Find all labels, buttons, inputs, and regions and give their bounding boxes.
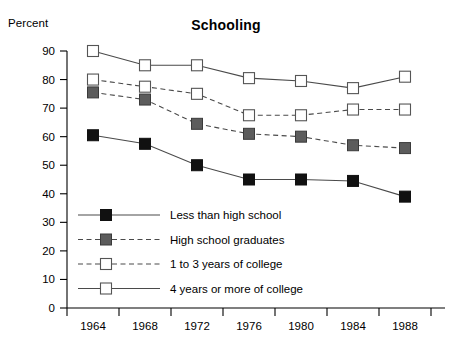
data-point-marker — [400, 104, 411, 115]
data-series — [88, 46, 411, 94]
data-series-group — [88, 46, 411, 203]
y-tick-label: 40 — [42, 188, 55, 200]
line-chart-plot: 0102030405060708090 19641968197219761980… — [0, 0, 452, 354]
data-point-marker — [244, 73, 255, 84]
x-axis: 1964196819721976198019841988 — [67, 308, 445, 332]
y-axis: 0102030405060708090 — [42, 45, 67, 314]
x-tick-label: 1976 — [236, 320, 262, 332]
y-tick-label: 30 — [42, 216, 55, 228]
x-tick-label: 1968 — [132, 320, 158, 332]
legend-marker-swatch — [101, 234, 112, 245]
y-tick-label: 20 — [42, 245, 55, 257]
y-tick-label: 80 — [42, 74, 55, 86]
data-point-marker — [88, 46, 99, 57]
data-point-marker — [296, 131, 307, 142]
data-point-marker — [192, 88, 203, 99]
data-point-marker — [140, 60, 151, 71]
x-tick-label: 1972 — [184, 320, 210, 332]
data-point-marker — [400, 143, 411, 154]
y-tick-label: 60 — [42, 131, 55, 143]
data-point-marker — [140, 138, 151, 149]
data-point-marker — [140, 94, 151, 105]
legend-item: 4 years or more of college — [78, 283, 303, 295]
data-point-marker — [88, 130, 99, 141]
x-tick-label: 1988 — [392, 320, 418, 332]
data-point-marker — [296, 174, 307, 185]
data-point-marker — [192, 160, 203, 171]
y-tick-label: 50 — [42, 159, 55, 171]
legend-label: 4 years or more of college — [170, 283, 303, 295]
data-point-marker — [244, 128, 255, 139]
legend-label: 1 to 3 years of college — [170, 258, 283, 270]
data-point-marker — [88, 87, 99, 98]
legend-item: Less than high school — [78, 209, 281, 221]
data-point-marker — [348, 83, 359, 94]
data-point-marker — [348, 140, 359, 151]
data-point-marker — [348, 175, 359, 186]
x-tick-label: 1984 — [340, 320, 366, 332]
data-point-marker — [400, 71, 411, 82]
y-tick-label: 70 — [42, 102, 55, 114]
data-point-marker — [88, 74, 99, 85]
chart-legend: Less than high schoolHigh school graduat… — [78, 209, 303, 295]
legend-item: 1 to 3 years of college — [78, 258, 283, 270]
data-series — [88, 130, 411, 202]
data-point-marker — [192, 118, 203, 129]
legend-item: High school graduates — [78, 234, 285, 246]
chart-container: Percent Schooling 0102030405060708090 19… — [0, 0, 452, 354]
data-point-marker — [192, 60, 203, 71]
legend-marker-swatch — [101, 210, 112, 221]
x-tick-label: 1980 — [288, 320, 314, 332]
legend-label: Less than high school — [170, 209, 281, 221]
legend-label: High school graduates — [170, 234, 285, 246]
y-tick-label: 0 — [49, 302, 55, 314]
x-tick-label: 1964 — [80, 320, 106, 332]
data-point-marker — [348, 104, 359, 115]
data-point-marker — [296, 110, 307, 121]
legend-marker-swatch — [101, 259, 112, 270]
data-point-marker — [296, 75, 307, 86]
data-point-marker — [140, 81, 151, 92]
data-point-marker — [244, 174, 255, 185]
y-tick-label: 10 — [42, 273, 55, 285]
data-point-marker — [244, 110, 255, 121]
data-point-marker — [400, 191, 411, 202]
legend-marker-swatch — [101, 283, 112, 294]
y-tick-label: 90 — [42, 45, 55, 57]
